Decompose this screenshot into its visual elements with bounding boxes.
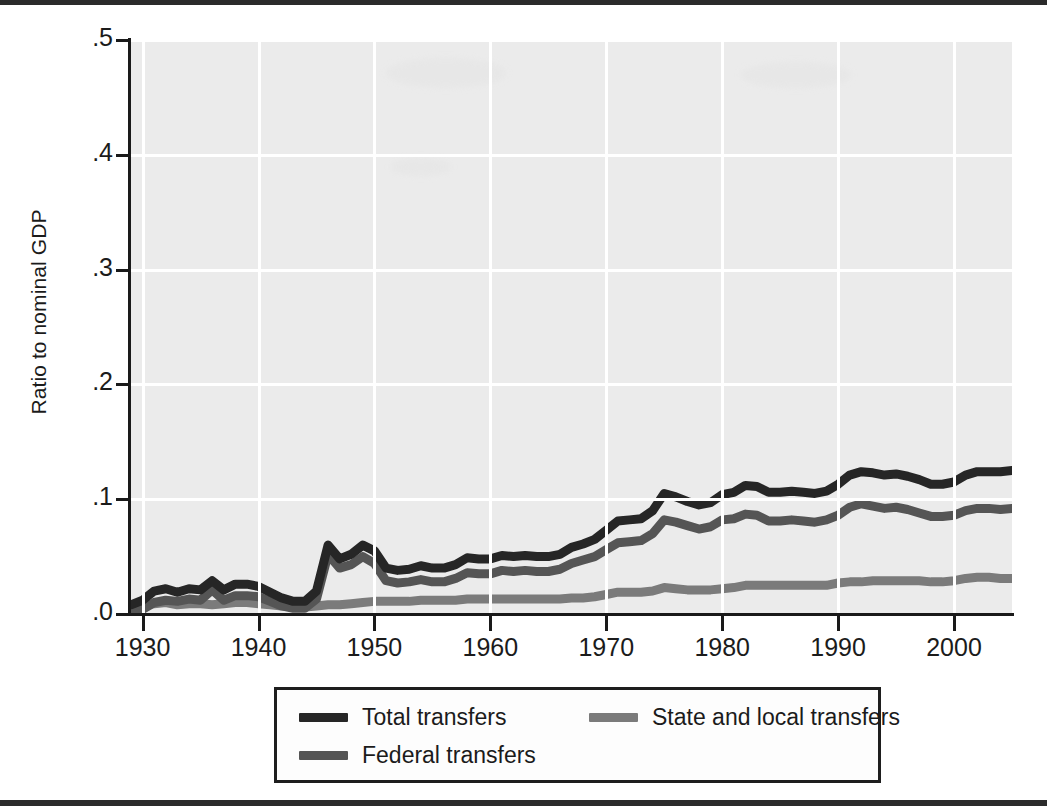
- y-tick: [116, 269, 130, 272]
- gridline-horizontal: [131, 269, 1012, 272]
- gridline-vertical: [721, 40, 724, 614]
- x-tick: [721, 616, 724, 631]
- x-tick: [142, 616, 145, 631]
- x-tick-label: 1940: [204, 633, 314, 662]
- x-axis-line: [128, 613, 1014, 616]
- legend-label-state-local: State and local transfers: [652, 704, 900, 731]
- y-tick-label: .0: [61, 597, 113, 626]
- legend-label-total: Total transfers: [362, 704, 506, 731]
- y-tick: [116, 383, 130, 386]
- x-tick-label: 1950: [319, 633, 429, 662]
- x-tick-label: 1930: [88, 633, 198, 662]
- legend-swatch-total: [299, 713, 348, 722]
- x-tick-label: 1970: [551, 633, 661, 662]
- legend-label-federal: Federal transfers: [362, 742, 536, 769]
- y-tick: [116, 154, 130, 157]
- legend-item-total: Total transfers: [299, 704, 506, 731]
- series-lines: [131, 40, 1012, 614]
- y-axis-line: [128, 38, 131, 616]
- legend-swatch-federal: [299, 751, 348, 760]
- y-axis-title: Ratio to nominal GDP: [27, 147, 51, 477]
- gridline-vertical: [142, 40, 145, 614]
- y-tick-label: .1: [61, 482, 113, 511]
- y-tick: [116, 498, 130, 501]
- y-tick-label: .5: [61, 23, 113, 52]
- x-tick-label: 2000: [899, 633, 1009, 662]
- x-tick: [373, 616, 376, 631]
- legend: Total transfers State and local transfer…: [274, 687, 881, 783]
- gridline-vertical: [489, 40, 492, 614]
- y-tick: [116, 613, 130, 616]
- x-tick: [489, 616, 492, 631]
- legend-item-federal: Federal transfers: [299, 742, 536, 769]
- gridline-vertical: [258, 40, 261, 614]
- x-tick: [605, 616, 608, 631]
- x-tick: [258, 616, 261, 631]
- y-tick-label: .2: [61, 367, 113, 396]
- gridline-horizontal: [131, 154, 1012, 157]
- x-tick-label: 1990: [783, 633, 893, 662]
- gridline-horizontal: [131, 498, 1012, 501]
- legend-swatch-state-local: [589, 713, 638, 722]
- y-tick: [116, 39, 130, 42]
- x-tick: [953, 616, 956, 631]
- gridline-horizontal: [131, 39, 1012, 42]
- legend-item-state-local: State and local transfers: [589, 704, 900, 731]
- line-chart: Ratio to nominal GDP .0.1.2.3.4.5 193019…: [0, 0, 1047, 806]
- x-tick: [837, 616, 840, 631]
- figure-root: Ratio to nominal GDP .0.1.2.3.4.5 193019…: [0, 0, 1047, 806]
- y-tick-label: .3: [61, 253, 113, 282]
- gridline-vertical: [837, 40, 840, 614]
- plot-area: [131, 40, 1012, 614]
- gridline-vertical: [605, 40, 608, 614]
- gridline-vertical: [373, 40, 376, 614]
- gridline-horizontal: [131, 383, 1012, 386]
- x-tick-label: 1980: [667, 633, 777, 662]
- y-tick-label: .4: [61, 138, 113, 167]
- gridline-vertical: [953, 40, 956, 614]
- x-tick-label: 1960: [435, 633, 545, 662]
